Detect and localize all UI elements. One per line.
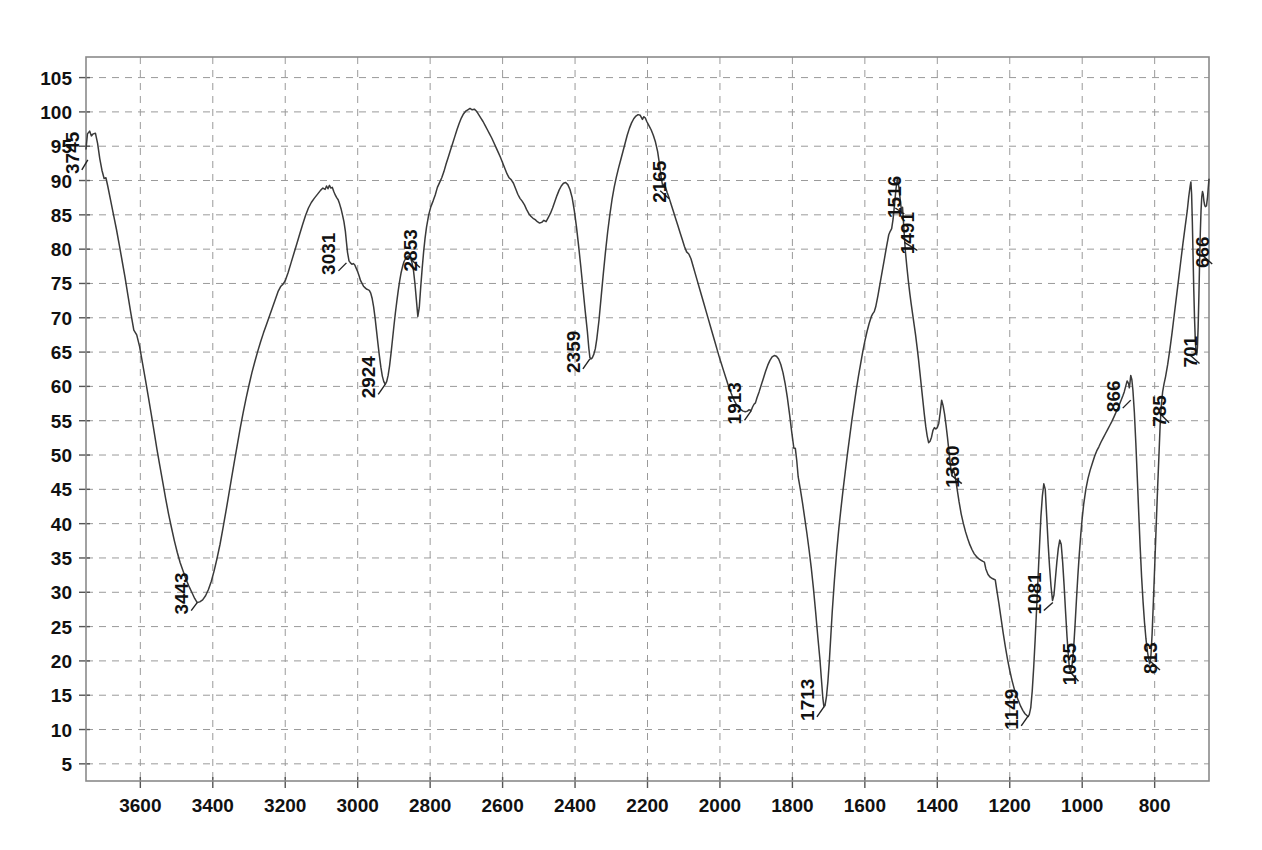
peak-label-701: 701 [1180, 335, 1201, 367]
y-tick-label: 85 [51, 205, 73, 226]
axis-tickmarks [79, 78, 1155, 788]
x-tick-label: 3200 [264, 795, 306, 816]
y-tick-label: 35 [51, 548, 73, 569]
x-tick-label: 800 [1139, 795, 1171, 816]
peak-label-1035: 1035 [1059, 642, 1080, 685]
peak-label-1491: 1491 [897, 212, 918, 255]
peak-annotations: 3745344330312924285323592165191317131516… [62, 131, 1213, 730]
y-tick-label: 50 [51, 445, 72, 466]
y-tick-label: 100 [40, 102, 72, 123]
peak-label-1081: 1081 [1024, 572, 1045, 615]
y-tick-label: 75 [51, 273, 73, 294]
y-tick-label: 25 [51, 617, 73, 638]
x-tick-label: 2200 [626, 795, 668, 816]
peak-label-1360: 1360 [942, 445, 963, 487]
x-tick-label: 3600 [119, 795, 161, 816]
x-tick-label: 2000 [699, 795, 741, 816]
peak-leader-line [378, 384, 385, 394]
peak-label-2165: 2165 [649, 160, 670, 203]
peak-label-1516: 1516 [884, 176, 905, 218]
peak-leader-line [1044, 603, 1053, 611]
y-tick-label: 80 [51, 239, 72, 260]
x-tick-label: 1800 [771, 795, 813, 816]
y-tick-label: 45 [51, 479, 73, 500]
peak-label-3745: 3745 [62, 131, 83, 174]
y-tick-label: 10 [51, 720, 72, 741]
x-tick-label: 3000 [337, 795, 379, 816]
peak-label-866: 866 [1103, 380, 1124, 412]
x-tick-label: 1200 [989, 795, 1031, 816]
peak-label-666: 666 [1192, 236, 1213, 268]
y-tick-label: 55 [51, 411, 73, 432]
x-tick-label: 2800 [409, 795, 451, 816]
y-tick-label: 20 [51, 651, 72, 672]
peak-label-2853: 2853 [400, 229, 421, 271]
y-tick-label: 105 [40, 68, 72, 89]
peak-leader-line [1021, 716, 1028, 726]
peak-label-1913: 1913 [724, 382, 745, 424]
y-tick-label: 60 [51, 376, 72, 397]
peak-label-785: 785 [1149, 395, 1170, 427]
y-tick-label: 15 [51, 685, 73, 706]
peak-label-813: 813 [1140, 642, 1161, 674]
x-tick-label: 1000 [1061, 795, 1103, 816]
y-tick-label: 65 [51, 342, 73, 363]
peak-label-2359: 2359 [563, 331, 584, 373]
peak-leader-line [338, 263, 346, 271]
x-tick-label: 1600 [844, 795, 886, 816]
spectrum-plot-canvas: 5101520253035404550556065707580859095100… [0, 0, 1262, 850]
x-axis-tick-labels: 3600340032003000280026002400220020001800… [119, 795, 1170, 816]
peak-label-2924: 2924 [358, 356, 379, 399]
gridlines [86, 57, 1209, 781]
y-tick-label: 30 [51, 582, 72, 603]
x-tick-label: 2400 [554, 795, 596, 816]
peak-leader-line [1123, 400, 1131, 408]
y-tick-label: 70 [51, 308, 72, 329]
x-tick-label: 2600 [481, 795, 523, 816]
x-tick-label: 1400 [916, 795, 958, 816]
ir-spectrum-figure: 5101520253035404550556065707580859095100… [0, 0, 1262, 850]
peak-label-1713: 1713 [797, 679, 818, 721]
peak-leader-line [817, 707, 824, 717]
x-tick-label: 3400 [192, 795, 234, 816]
peak-label-3443: 3443 [171, 572, 192, 614]
peak-label-3031: 3031 [318, 232, 339, 275]
y-tick-label: 40 [51, 514, 72, 535]
peak-label-1149: 1149 [1001, 689, 1022, 730]
y-tick-label: 5 [61, 754, 72, 775]
peak-leader-line [583, 359, 590, 369]
